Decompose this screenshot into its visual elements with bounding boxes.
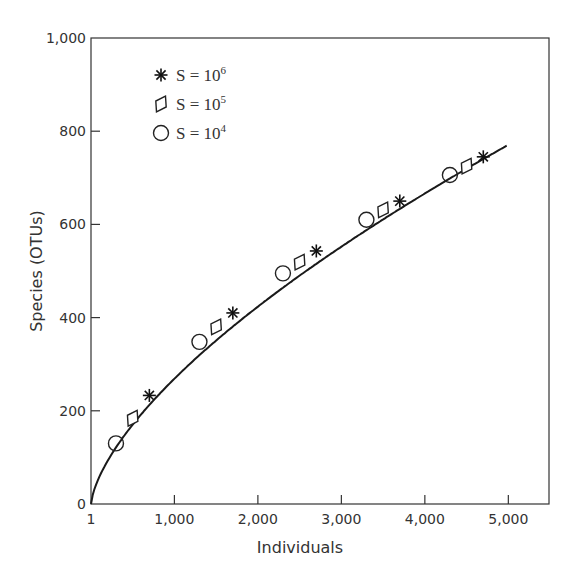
- y-tick-label: 600: [59, 216, 86, 232]
- legend-item: S = 105: [151, 93, 226, 115]
- y-tick-label: 800: [59, 123, 86, 139]
- asterisk-marker: [477, 150, 490, 163]
- legend: S = 106S = 105S = 104: [151, 64, 226, 143]
- x-axis-ticks: 11,0002,0003,0004,0005,000: [87, 495, 529, 527]
- x-tick-label: 1: [87, 511, 96, 527]
- x-axis-title: Individuals: [257, 538, 343, 557]
- diamond-icon: [151, 93, 170, 115]
- circle-marker: [275, 266, 290, 281]
- asterisk-marker: [226, 306, 239, 319]
- circle-marker: [359, 212, 374, 227]
- y-tick-label: 0: [77, 496, 86, 512]
- y-axis-ticks: 02004006008001,000: [46, 30, 100, 512]
- legend-label: S = 104: [176, 122, 227, 143]
- circle-marker: [108, 436, 123, 451]
- x-tick-label: 2,000: [238, 511, 278, 527]
- x-tick-label: 1,000: [154, 511, 194, 527]
- circle-marker: [192, 334, 207, 349]
- asterisk-marker: [393, 195, 406, 208]
- asterisk-icon: [155, 69, 168, 82]
- legend-label: S = 106: [176, 64, 227, 85]
- legend-label: S = 105: [176, 93, 227, 114]
- legend-item: S = 104: [154, 122, 227, 143]
- y-tick-label: 400: [59, 310, 86, 326]
- x-tick-label: 5,000: [488, 511, 528, 527]
- x-tick-label: 4,000: [405, 511, 445, 527]
- rarefaction-chart: 02004006008001,000 11,0002,0003,0004,000…: [0, 0, 578, 582]
- circle-icon: [154, 126, 169, 141]
- data-markers: [108, 150, 489, 451]
- diamond-marker: [373, 199, 392, 221]
- circle-marker: [442, 168, 457, 183]
- asterisk-marker: [310, 244, 323, 257]
- x-tick-label: 3,000: [321, 511, 361, 527]
- legend-item: S = 106: [155, 64, 227, 85]
- y-tick-label: 1,000: [46, 30, 86, 46]
- y-axis-title: Species (OTUs): [27, 210, 46, 332]
- rarefaction-curve: [91, 146, 507, 504]
- asterisk-marker: [143, 389, 156, 402]
- y-tick-label: 200: [59, 403, 86, 419]
